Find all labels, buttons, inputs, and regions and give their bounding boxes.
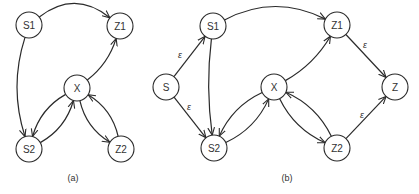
edge-z2-to-x bbox=[88, 95, 118, 137]
state-node-z2: Z2 bbox=[324, 135, 350, 161]
edge-z2-to-x bbox=[286, 92, 331, 136]
state-label: S2 bbox=[208, 143, 221, 154]
edge-s1-to-s2 bbox=[209, 39, 213, 135]
edge-x-to-z1 bbox=[87, 38, 116, 80]
state-label: X bbox=[74, 83, 81, 94]
state-node-s1: S1 bbox=[200, 13, 226, 39]
edge-x-to-z1 bbox=[285, 36, 330, 80]
state-node-s2: S2 bbox=[201, 135, 227, 161]
diagram-b-caption: (b) bbox=[282, 173, 293, 183]
edge-label-epsilon: ε bbox=[178, 50, 183, 60]
state-node-x: X bbox=[261, 74, 287, 100]
diagram-a-caption: (a) bbox=[68, 173, 79, 183]
state-node-z1: Z1 bbox=[324, 12, 350, 38]
edge-x-to-s2 bbox=[33, 94, 66, 136]
state-node-s2: S2 bbox=[16, 136, 42, 162]
state-label: S2 bbox=[23, 144, 36, 155]
diagram-a: S1Z1XS2Z2 (a) bbox=[16, 3, 134, 183]
state-label: S1 bbox=[207, 21, 220, 32]
state-node-z: Z bbox=[382, 74, 408, 100]
edge-s2-to-x bbox=[226, 99, 269, 143]
state-label: Z2 bbox=[115, 144, 127, 155]
edge-s1-to-s2 bbox=[17, 37, 25, 136]
state-label: S1 bbox=[23, 20, 36, 31]
state-label: Z bbox=[392, 82, 398, 93]
state-node-s: S bbox=[153, 74, 179, 100]
diagram-b: εεεε SS1S2XZ1Z2Z (b) bbox=[153, 7, 408, 183]
edge-s1-to-z1 bbox=[39, 3, 110, 17]
state-node-z1: Z1 bbox=[107, 13, 133, 39]
edge-z2-to-z bbox=[346, 96, 386, 138]
state-node-z2: Z2 bbox=[108, 136, 134, 162]
state-node-x: X bbox=[64, 75, 90, 101]
state-label: S bbox=[163, 82, 170, 93]
diagram-canvas: S1Z1XS2Z2 (a) εεεε SS1S2XZ1Z2Z (b) bbox=[0, 0, 419, 194]
state-node-s1: S1 bbox=[16, 12, 42, 38]
state-label: Z1 bbox=[331, 20, 343, 31]
edge-label-epsilon: ε bbox=[187, 102, 192, 112]
edge-s1-to-z1 bbox=[225, 7, 326, 20]
edge-x-to-z2 bbox=[80, 101, 110, 143]
diagram-b-nodes: SS1S2XZ1Z2Z bbox=[153, 12, 408, 161]
state-label: Z2 bbox=[331, 143, 343, 154]
edge-x-to-z2 bbox=[280, 99, 325, 143]
diagram-a-nodes: S1Z1XS2Z2 bbox=[16, 12, 134, 162]
edge-s2-to-x bbox=[40, 101, 73, 143]
edge-label-epsilon: ε bbox=[363, 40, 368, 50]
state-diagram-figure: S1Z1XS2Z2 (a) εεεε SS1S2XZ1Z2Z (b) bbox=[0, 0, 419, 194]
edge-x-to-s2 bbox=[219, 92, 262, 136]
state-label: X bbox=[271, 82, 278, 93]
state-label: Z1 bbox=[114, 21, 126, 32]
